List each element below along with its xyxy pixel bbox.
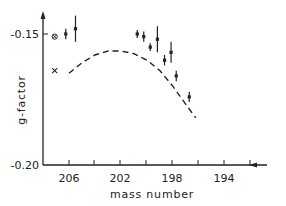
g-factor-chart: -0.15 -0.20 206 202 198 194 mass number … [0,0,286,206]
y-tick-label: -0.20 [11,159,39,172]
y-axis-label: g-factor [15,75,28,125]
data-point [156,38,159,41]
data-point [175,74,178,77]
data-point [188,95,191,98]
data-point [169,51,172,54]
data-point [163,59,166,62]
y-tick-label: -0.15 [11,28,39,41]
data-point [142,35,145,38]
x-tick-label: 194 [214,172,235,185]
theory-curve [69,51,196,118]
x-tick-label: 198 [162,172,183,185]
y-axis-arrow-icon [41,11,46,19]
data-point [74,27,77,30]
data-point [149,46,152,49]
x-ticks [69,160,250,165]
x-tick-label: 202 [110,172,131,185]
x-tick-label: 206 [59,172,80,185]
x-axis-label: mass number [110,188,194,201]
data-point [64,32,67,35]
plot-area [52,16,196,118]
data-point [136,32,139,35]
